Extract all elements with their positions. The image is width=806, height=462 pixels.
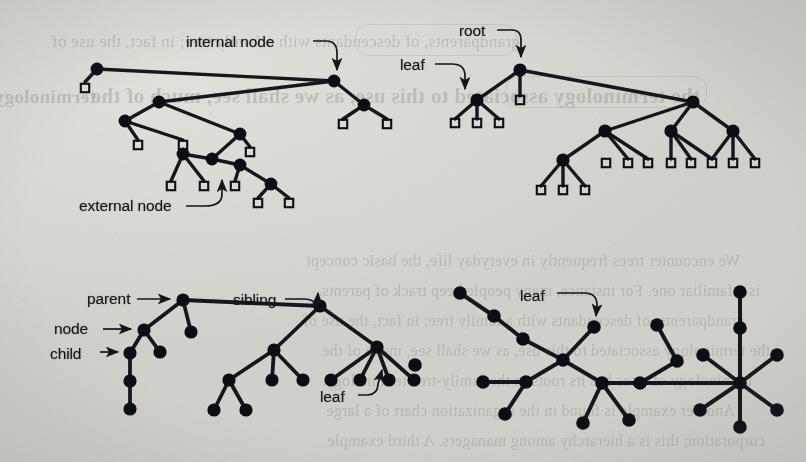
label-leaf-tree4: leaf: [520, 287, 545, 305]
label-internal-node: internal node: [186, 33, 274, 51]
label-root: root: [459, 22, 485, 40]
label-child: child: [50, 345, 81, 363]
label-node: node: [54, 320, 88, 338]
label-parent: parent: [87, 290, 130, 308]
label-leaf-tree2: leaf: [400, 56, 425, 74]
label-external-node: external node: [79, 197, 172, 215]
label-leaf-tree3: leaf: [320, 388, 345, 406]
label-sibling: sibling: [233, 291, 276, 309]
